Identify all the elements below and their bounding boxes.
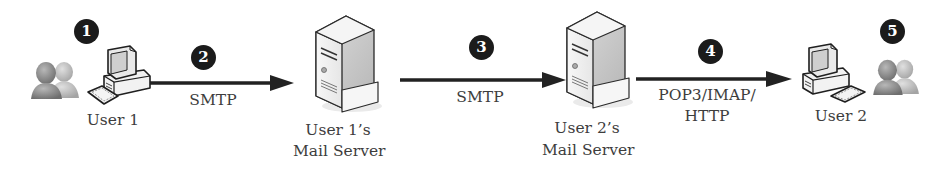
step-badge-5: 5: [880, 19, 905, 44]
protocol-label-pop3-imap: POP3/IMAP/: [652, 85, 762, 106]
node-label-server2-line2: Mail Server: [542, 140, 632, 161]
users-group-icon: [871, 56, 923, 96]
mail-server-icon: [312, 10, 382, 120]
protocol-label-http: HTTP: [652, 106, 762, 127]
mail-server-icon: [563, 6, 633, 116]
node-label-server1-line1: User 1’s: [293, 120, 383, 141]
step-badge-4: 4: [698, 39, 723, 64]
users-group-icon: [30, 58, 82, 100]
desktop-computer-icon: [86, 46, 152, 108]
step-badge-3: 3: [469, 35, 494, 60]
desktop-computer-icon: [801, 44, 867, 106]
protocol-label-smtp-1: SMTP: [178, 90, 248, 111]
node-label-server2-line1: User 2’s: [542, 118, 632, 139]
step-badge-2: 2: [191, 45, 216, 70]
node-label-server1-line2: Mail Server: [293, 141, 383, 162]
node-label-user1: User 1: [78, 110, 148, 131]
node-label-user2: User 2: [806, 106, 876, 127]
step-badge-1: 1: [74, 19, 99, 44]
protocol-label-smtp-2: SMTP: [445, 87, 515, 108]
